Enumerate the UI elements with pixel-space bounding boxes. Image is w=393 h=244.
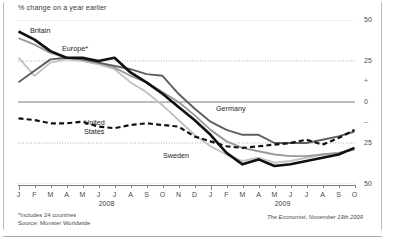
series-label-europe: Europe* — [62, 45, 88, 54]
x-axis-tick-3 — [67, 185, 68, 188]
series-label-sweden: Sweden — [163, 152, 189, 161]
y-axis-tick-4: – — [364, 118, 368, 125]
page-rule-bottom — [3, 236, 382, 237]
x-axis-tick-13 — [227, 185, 228, 188]
x-axis-month-19: A — [317, 191, 329, 198]
x-axis-tick-18 — [307, 185, 308, 188]
x-axis-month-12: J — [205, 191, 217, 198]
x-axis-tick-7 — [131, 185, 132, 188]
y-axis-tick-2: + — [364, 77, 368, 84]
x-axis-month-15: A — [253, 191, 265, 198]
x-axis-month-8: S — [141, 191, 153, 198]
series-label-germany: Germany — [216, 105, 246, 114]
x-axis-month-16: M — [269, 191, 281, 198]
x-axis-baseline — [18, 185, 355, 186]
y-axis-tick-5: 25 — [364, 139, 372, 146]
series-label-united-states-line2: States — [84, 128, 104, 137]
x-axis-month-5: J — [93, 191, 105, 198]
chart-title: % change on a year earlier — [18, 3, 107, 12]
x-axis-month-0: J — [13, 191, 25, 198]
series-line-europe — [19, 38, 355, 156]
x-axis: JFMAMJJASONDJFMAMJJASO20082009 — [18, 185, 355, 201]
x-axis-month-11: D — [189, 191, 201, 198]
series-line-germany — [19, 58, 355, 143]
x-axis-tick-12 — [211, 185, 212, 190]
x-axis-tick-4 — [83, 185, 84, 188]
x-axis-year-0: 2008 — [87, 200, 127, 207]
x-axis-tick-0 — [19, 185, 20, 190]
page-rule-right — [381, 2, 382, 230]
series-line-sweden — [19, 58, 355, 163]
x-axis-month-18: J — [301, 191, 313, 198]
x-axis-tick-14 — [243, 185, 244, 188]
x-axis-tick-1 — [35, 185, 36, 188]
x-axis-year-1: 2009 — [263, 200, 303, 207]
y-axis-tick-3: 0 — [364, 98, 368, 105]
x-axis-tick-5 — [99, 185, 100, 188]
x-axis-month-2: M — [45, 191, 57, 198]
x-axis-month-1: F — [29, 191, 41, 198]
x-axis-month-13: F — [221, 191, 233, 198]
series-label-britain: Britain — [30, 27, 50, 36]
x-axis-month-4: M — [77, 191, 89, 198]
x-axis-month-10: N — [173, 191, 185, 198]
x-axis-tick-21 — [355, 185, 356, 188]
publication-credit: The Economist, November 19th 2009 — [267, 214, 363, 220]
y-axis-tick-6: 50 — [364, 180, 372, 187]
x-axis-tick-2 — [51, 185, 52, 188]
economist-chart-figure: % change on a year earlier 5025+0–2550 J… — [0, 0, 393, 244]
x-axis-tick-11 — [195, 185, 196, 188]
x-axis-month-3: A — [61, 191, 73, 198]
x-axis-month-7: A — [125, 191, 137, 198]
x-axis-month-6: J — [109, 191, 121, 198]
footnote-source: Source: Monster Worldwide — [18, 220, 90, 226]
x-axis-month-20: S — [333, 191, 345, 198]
y-axis-tick-1: 25 — [364, 57, 372, 64]
x-axis-tick-17 — [291, 185, 292, 188]
x-axis-tick-20 — [339, 185, 340, 188]
x-axis-month-17: J — [285, 191, 297, 198]
x-axis-tick-16 — [275, 185, 276, 188]
x-axis-tick-8 — [147, 185, 148, 188]
x-axis-tick-15 — [259, 185, 260, 188]
x-axis-month-21: O — [349, 191, 361, 198]
x-axis-tick-9 — [163, 185, 164, 188]
x-axis-tick-6 — [115, 185, 116, 188]
y-axis-tick-0: 50 — [364, 16, 372, 23]
x-axis-month-9: O — [157, 191, 169, 198]
footnote-includes-countries: *Includes 24 countries — [18, 212, 76, 218]
x-axis-tick-19 — [323, 185, 324, 188]
x-axis-month-14: M — [237, 191, 249, 198]
x-axis-tick-10 — [179, 185, 180, 188]
page-rule-left — [3, 2, 4, 230]
